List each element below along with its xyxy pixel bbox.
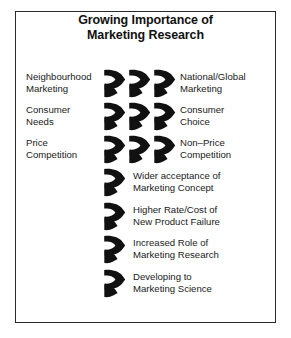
arrow-group-progression [101,102,176,132]
progression-to-label: ConsumerChoice [180,104,224,128]
progression-from-label-line-2: Marketing [26,83,92,95]
outcome-row: Wider acceptance ofMarketing Concept [0,168,291,201]
outcome-label: Higher Rate/Cost ofNew Product Failure [133,204,220,228]
crescent-arrow-icon [101,168,126,197]
progression-row: ConsumerNeeds ConsumerChoice [0,102,291,135]
arrow-group-outcome [101,202,126,232]
progression-to-label-line-2: Competition [180,149,231,161]
crescent-arrow-icon [126,135,151,164]
progression-to-label-line-2: Choice [180,116,224,128]
progression-to-label: Non–PriceCompetition [180,137,231,161]
progression-from-label: PriceCompetition [26,137,77,161]
outcome-label-line-1: Increased Role of [133,237,219,249]
crescent-arrow-icon [151,102,176,131]
arrow-group-outcome [101,168,126,198]
progression-to-label: National/GlobalMarketing [180,71,246,95]
crescent-arrow-icon [126,69,151,98]
progression-to-label-line-1: Non–Price [180,137,231,149]
outcome-label-line-1: Higher Rate/Cost of [133,204,220,216]
progression-from-label-line-1: Neighbourhood [26,71,92,83]
outcome-label-line-1: Wider acceptance of [133,170,220,182]
progression-from-label-line-2: Competition [26,149,77,161]
progression-to-label-line-1: Consumer [180,104,224,116]
arrow-group-progression [101,69,176,99]
arrow-group-outcome [101,235,126,265]
crescent-arrow-icon [101,235,126,264]
outcome-label-line-2: Marketing Concept [133,182,220,194]
outcome-label-line-2: Marketing Research [133,249,219,261]
outcome-row: Higher Rate/Cost ofNew Product Failure [0,202,291,235]
outcome-label-line-2: New Product Failure [133,216,220,228]
progression-row: PriceCompetition Non–PriceCompetition [0,135,291,168]
crescent-arrow-icon [101,202,126,231]
diagram-title: Growing Importance of Marketing Research [0,13,291,43]
progression-from-label-line-1: Price [26,137,77,149]
progression-to-label-line-2: Marketing [180,83,246,95]
arrow-group-outcome [101,269,126,299]
diagram-figure: Growing Importance of Marketing Research… [0,0,291,338]
crescent-arrow-icon [101,135,126,164]
outcome-label: Developing toMarketing Science [133,271,212,295]
diagram-title-line-1: Growing Importance of [0,13,291,28]
arrow-group-progression [101,135,176,165]
progression-from-label: ConsumerNeeds [26,104,70,128]
crescent-arrow-icon [151,135,176,164]
crescent-arrow-icon [101,269,126,298]
progression-row: NeighbourhoodMarketing National/GlobalMa… [0,69,291,102]
outcome-label-line-1: Developing to [133,271,212,283]
crescent-arrow-icon [101,69,126,98]
outcome-row: Increased Role ofMarketing Research [0,235,291,268]
progression-from-label: NeighbourhoodMarketing [26,71,92,95]
progression-from-label-line-2: Needs [26,116,70,128]
outcome-label: Wider acceptance ofMarketing Concept [133,170,220,194]
crescent-arrow-icon [151,69,176,98]
outcome-label-line-2: Marketing Science [133,283,212,295]
crescent-arrow-icon [101,102,126,131]
diagram-title-line-2: Marketing Research [0,28,291,43]
progression-to-label-line-1: National/Global [180,71,246,83]
crescent-arrow-icon [126,102,151,131]
outcome-label: Increased Role ofMarketing Research [133,237,219,261]
progression-from-label-line-1: Consumer [26,104,70,116]
outcome-row: Developing toMarketing Science [0,269,291,302]
